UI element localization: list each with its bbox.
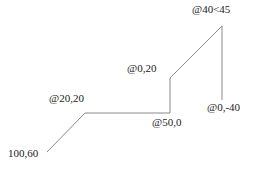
label-segment-at-40-angle-45: @40<45 <box>192 4 230 15</box>
polyline-diagram: 100,60 @20,20 @50,0 @0,20 @40<45 @0,-40 <box>0 0 257 172</box>
label-segment-at-20-20: @20,20 <box>49 93 84 104</box>
label-segment-at-0-minus-40: @0,-40 <box>207 102 240 113</box>
polyline-graphic <box>0 0 257 172</box>
label-segment-at-0-20: @0,20 <box>127 63 156 74</box>
label-start-point: 100,60 <box>8 148 38 159</box>
polyline-path <box>47 26 222 152</box>
label-segment-at-50-0: @50,0 <box>152 117 181 128</box>
